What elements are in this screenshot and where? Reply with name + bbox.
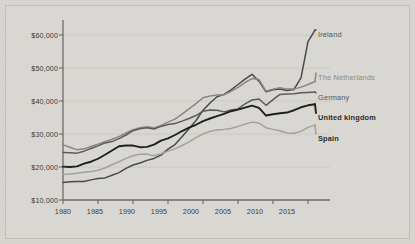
- x-tick-label: 2005: [209, 207, 237, 216]
- axis-lines: [63, 20, 330, 200]
- series-line-ireland: [63, 30, 315, 182]
- series-label-netherlands: The Netherlands: [318, 73, 375, 82]
- series-label-germany: Germany: [318, 93, 349, 102]
- y-tick-label: $40,000: [14, 97, 58, 106]
- series-leader-the-netherlands: [315, 73, 316, 82]
- x-tick-label: 1985: [81, 207, 109, 216]
- gridlines: [63, 35, 330, 200]
- series-label-uk: United kingdom: [318, 113, 376, 122]
- data-series: [63, 30, 316, 183]
- x-tick-label: 2010: [241, 207, 269, 216]
- x-tick-label: 1980: [49, 207, 77, 216]
- series-label-spain: Spain: [318, 134, 339, 143]
- y-tick-label: $30,000: [14, 130, 58, 139]
- series-leader-spain: [315, 125, 316, 134]
- y-tick-label: $50,000: [14, 64, 58, 73]
- y-tick-label: $10,000: [14, 196, 58, 205]
- series-label-ireland: Ireland: [318, 30, 342, 39]
- series-leader-germany: [315, 92, 316, 93]
- series-line-united-kingdom: [63, 104, 315, 167]
- x-tick-label: 1990: [113, 207, 141, 216]
- series-leader-united-kingdom: [315, 104, 316, 113]
- series-line-spain: [63, 122, 315, 174]
- x-tick-label: 2000: [177, 207, 205, 216]
- chart-figure: $60,000 $50,000 $40,000 $30,000 $20,000 …: [0, 0, 415, 244]
- y-tick-label: $60,000: [14, 31, 58, 40]
- x-tick-label: 2015: [273, 207, 301, 216]
- x-tick-label: 1995: [145, 207, 173, 216]
- y-tick-label: $20,000: [14, 163, 58, 172]
